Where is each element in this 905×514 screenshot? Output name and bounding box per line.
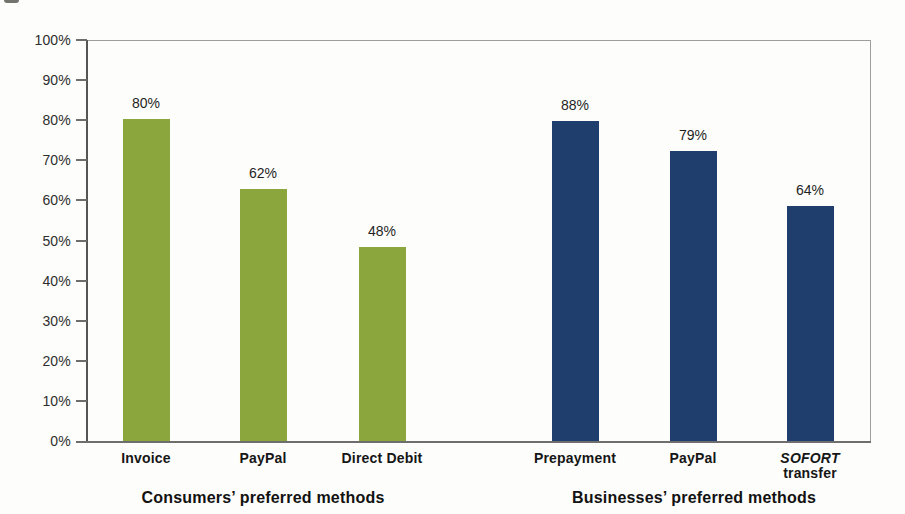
y-tick-label: 80% — [0, 112, 71, 128]
plot-right-border — [870, 40, 871, 441]
category-label-line: Direct Debit — [312, 451, 452, 466]
y-tick-label: 90% — [0, 72, 71, 88]
y-tick-mark — [76, 79, 87, 81]
y-tick-label: 20% — [0, 353, 71, 369]
scan-artifact — [4, 0, 19, 3]
y-tick-mark — [76, 39, 87, 41]
bar-value-label: 48% — [342, 223, 422, 240]
y-tick-label: 0% — [0, 433, 71, 449]
y-tick-mark — [76, 240, 87, 242]
payment-methods-bar-chart: 100%90%80%70%60%50%40%30%20%10%0% 80%62%… — [0, 0, 905, 514]
y-tick-mark — [76, 119, 87, 121]
y-axis-line — [86, 40, 88, 443]
y-tick-label: 60% — [0, 192, 71, 208]
y-tick-mark — [76, 199, 87, 201]
y-tick-mark — [76, 320, 87, 322]
bar-prepayment — [552, 121, 599, 441]
bar-direct-debit — [359, 247, 406, 441]
y-tick-label: 30% — [0, 313, 71, 329]
y-tick-mark — [76, 159, 87, 161]
group-title-businesses: Businesses’ preferred methods — [572, 489, 816, 507]
y-tick-mark — [76, 400, 87, 402]
bar-value-label: 64% — [770, 182, 850, 199]
y-tick-label: 50% — [0, 233, 71, 249]
y-tick-mark — [76, 360, 87, 362]
y-tick-label: 100% — [0, 32, 71, 48]
category-label-line: SOFORT — [740, 451, 880, 466]
bar-paypal — [240, 189, 287, 441]
y-tick-label: 70% — [0, 152, 71, 168]
y-tick-mark — [76, 280, 87, 282]
category-label: Direct Debit — [312, 451, 452, 466]
bar-value-label: 79% — [653, 127, 733, 144]
x-axis-line — [76, 441, 871, 443]
plot-top-border — [88, 40, 871, 41]
bar-value-label: 88% — [535, 97, 615, 114]
group-title-consumers: Consumers’ preferred methods — [142, 489, 385, 507]
category-label-line: transfer — [740, 466, 880, 481]
y-tick-label: 10% — [0, 393, 71, 409]
bar-value-label: 80% — [106, 95, 186, 112]
bar-sofort-transfer — [787, 206, 834, 441]
bar-invoice — [123, 119, 170, 441]
bar-value-label: 62% — [223, 165, 303, 182]
bar-paypal — [670, 151, 717, 441]
category-label: SOFORTtransfer — [740, 451, 880, 481]
y-tick-label: 40% — [0, 273, 71, 289]
